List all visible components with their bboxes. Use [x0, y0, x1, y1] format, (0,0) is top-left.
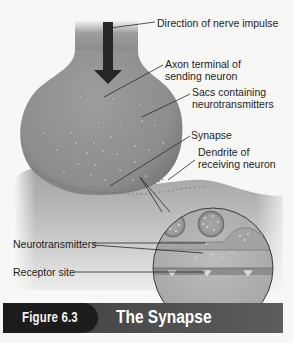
label-direction-of-nerve-impulse: Direction of nerve impulse [157, 17, 278, 29]
axon-terminal-shape [20, 20, 182, 195]
label-dendrite-line1: Dendrite of [198, 146, 249, 158]
label-neurotransmitters: Neurotransmitters [13, 238, 96, 250]
label-synapse: Synapse [191, 129, 232, 141]
label-dendrite-line2: receiving neuron [198, 158, 276, 170]
figure-title: The Synapse [116, 307, 212, 328]
figure-caption-banner: Figure 6.3 The Synapse [3, 303, 283, 333]
label-sacs-line2: neurotransmitters [192, 98, 274, 110]
label-sacs-line1: Sacs containing [192, 86, 266, 98]
label-receptor-site: Receptor site [13, 266, 75, 278]
synapse-diagram: Direction of nerve impulse Axon terminal… [0, 0, 293, 343]
diagram-illustration [0, 0, 293, 343]
figure-number: Figure 6.3 [22, 309, 78, 325]
figure-number-tab: Figure 6.3 [3, 303, 98, 333]
label-axon-terminal-line2: sending neuron [165, 70, 237, 82]
label-axon-terminal-line1: Axon terminal of [165, 58, 241, 70]
